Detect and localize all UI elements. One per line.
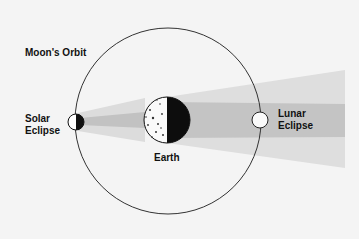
orbit-label: Moon's Orbit [25,47,86,59]
moon-lunar-icon [252,112,268,128]
moon-solar-icon [68,114,84,130]
lunar-eclipse-label: Lunar Eclipse [278,108,313,132]
eclipse-diagram: Moon's Orbit Solar Eclipse Lunar Eclipse… [0,0,359,239]
earth-icon [144,97,190,143]
solar-eclipse-label: Solar Eclipse [25,113,60,137]
earth-label: Earth [154,152,180,164]
solar-label-line2: Eclipse [25,125,60,137]
lunar-label-line1: Lunar [278,108,313,120]
solar-label-line1: Solar [25,113,60,125]
lunar-label-line2: Eclipse [278,120,313,132]
